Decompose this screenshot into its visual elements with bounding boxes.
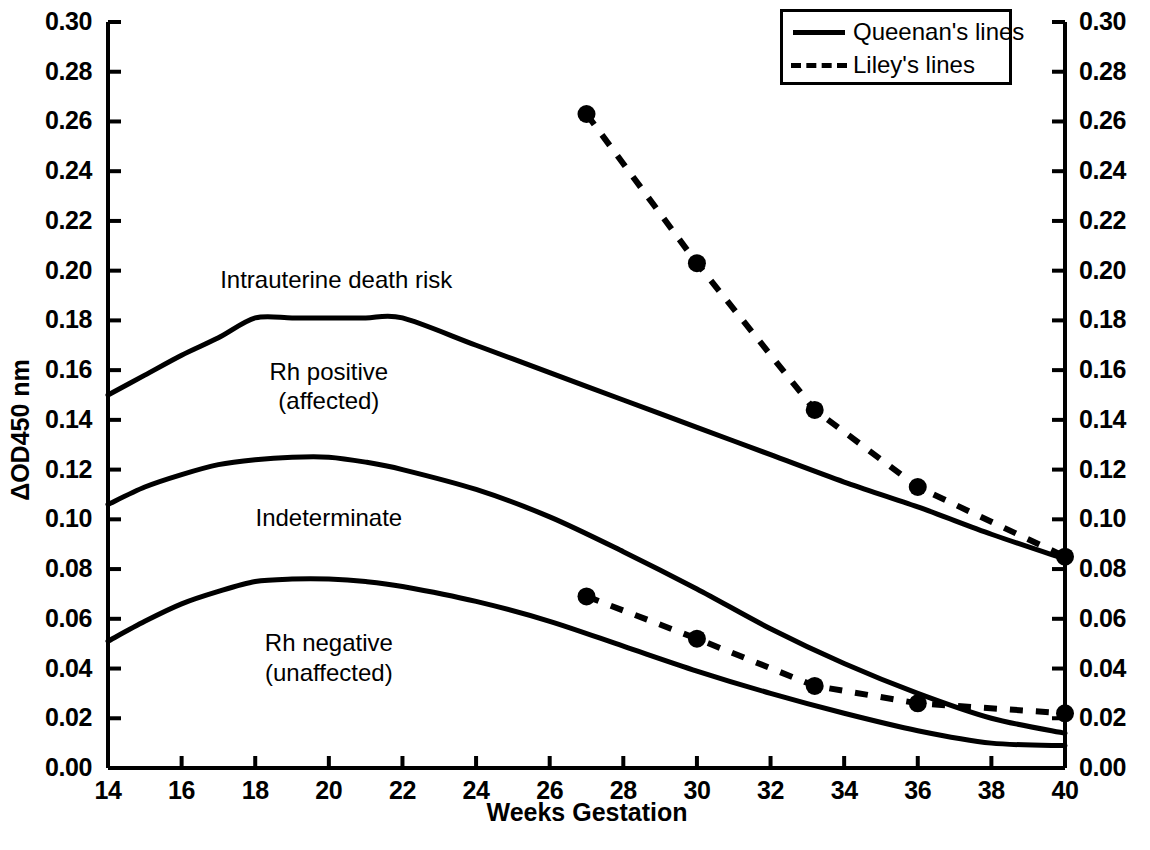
series-4-marker-3 [909,694,927,712]
y-tick-label-left-11: 0.22 [0,208,92,233]
y-tick-label-right-15: 0.30 [1079,9,1126,34]
y-tick-label-right-11: 0.22 [1079,208,1126,233]
x-tick-label-11: 36 [904,778,931,803]
dashed-line-swatch-icon [791,58,847,72]
y-tick-label-right-13: 0.26 [1079,108,1126,133]
plot-area [0,0,1150,850]
x-tick-label-10: 34 [831,778,858,803]
annotation-intrauterine-death-risk: Intrauterine death risk [220,267,452,294]
y-tick-label-left-0: 0.00 [0,755,92,780]
y-tick-label-right-2: 0.04 [1079,656,1126,681]
y-tick-label-right-14: 0.28 [1079,59,1126,84]
x-axis-title: Weeks Gestation [486,800,687,825]
annotation-rh-positive-sub: (affected) [278,388,379,415]
y-tick-label-left-9: 0.18 [0,307,92,332]
series-line-0 [108,316,1065,559]
y-axis-title: ΔOD450 nm [8,359,33,501]
annotation-rh-negative: Rh negative [265,630,393,657]
axes [108,22,1065,768]
series-line-3 [587,114,1066,557]
annotation-indeterminate: Indeterminate [255,505,402,532]
y-tick-label-left-3: 0.06 [0,606,92,631]
x-tick-label-3: 20 [315,778,342,803]
series-4-marker-0 [578,587,596,605]
x-tick-label-12: 38 [978,778,1005,803]
series-4-marker-4 [1056,704,1074,722]
y-tick-label-right-10: 0.20 [1079,258,1126,283]
y-tick-label-right-4: 0.08 [1079,556,1126,581]
x-tick-label-0: 14 [94,778,121,803]
y-tick-label-left-12: 0.24 [0,158,92,183]
series-3-marker-1 [688,254,706,272]
x-tick-label-13: 40 [1051,778,1078,803]
y-tick-label-left-1: 0.02 [0,705,92,730]
series-3-marker-3 [909,478,927,496]
y-tick-label-left-15: 0.30 [0,9,92,34]
y-tick-label-right-3: 0.06 [1079,606,1126,631]
series-4-marker-2 [806,677,824,695]
legend-item-queenan: Queenan's lines [791,16,1024,48]
legend-label-queenan: Queenan's lines [853,20,1024,44]
annotation-rh-positive: Rh positive [269,359,388,386]
y-tick-label-right-5: 0.10 [1079,506,1126,531]
y-tick-label-left-14: 0.28 [0,59,92,84]
solid-line-swatch-icon [791,25,847,39]
y-tick-label-left-13: 0.26 [0,108,92,133]
y-tick-label-left-10: 0.20 [0,258,92,283]
y-tick-label-right-0: 0.00 [1079,755,1126,780]
data-series [108,105,1074,746]
legend-label-liley: Liley's lines [853,53,975,77]
series-3-marker-4 [1056,548,1074,566]
y-tick-label-left-4: 0.08 [0,556,92,581]
annotation-rh-negative-sub: (unaffected) [265,660,393,687]
legend: Queenan's lines Liley's lines [780,9,1012,85]
y-tick-label-left-2: 0.04 [0,656,92,681]
y-tick-label-right-12: 0.24 [1079,158,1126,183]
series-3-marker-2 [806,401,824,419]
x-tick-label-1: 16 [168,778,195,803]
x-tick-label-9: 32 [757,778,784,803]
y-tick-label-left-5: 0.10 [0,506,92,531]
y-tick-label-right-6: 0.12 [1079,457,1126,482]
legend-item-liley: Liley's lines [791,49,975,81]
series-4-marker-1 [688,630,706,648]
y-tick-label-right-9: 0.18 [1079,307,1126,332]
x-tick-label-2: 18 [242,778,269,803]
y-tick-label-right-7: 0.14 [1079,407,1126,432]
y-tick-label-right-1: 0.02 [1079,705,1126,730]
y-tick-label-right-8: 0.16 [1079,357,1126,382]
series-3-marker-0 [578,105,596,123]
x-tick-label-4: 22 [389,778,416,803]
liley-queenan-chart: 0.000.020.040.060.080.100.120.140.160.18… [0,0,1150,850]
